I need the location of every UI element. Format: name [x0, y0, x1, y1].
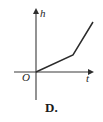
t-axis-label: t: [86, 73, 89, 84]
h-axis-arrowhead-icon: [33, 8, 39, 14]
option-letter-label: D.: [0, 101, 103, 114]
origin-label: O: [22, 72, 30, 83]
graph-figure: h t O D.: [0, 0, 103, 122]
h-axis-label: h: [40, 8, 46, 19]
data-curve: [36, 22, 93, 72]
